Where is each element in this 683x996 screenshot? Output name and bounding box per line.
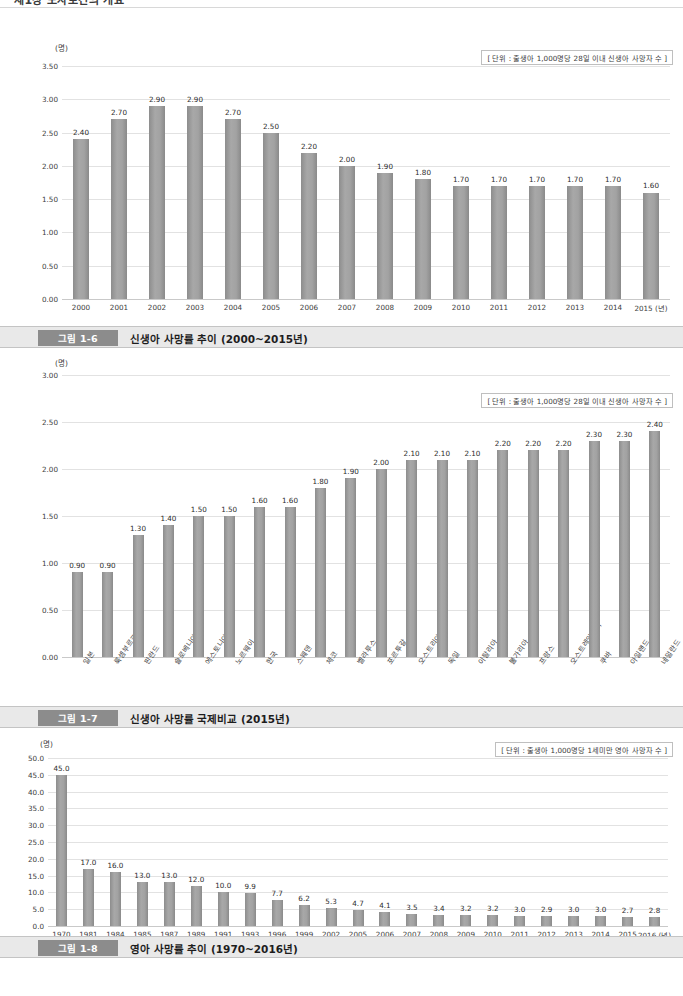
bar: [254, 507, 265, 657]
bar: [529, 186, 545, 299]
header-divider: [0, 7, 683, 8]
x-axis-tick-label: 스웨덴: [293, 660, 301, 666]
bar: [191, 886, 202, 926]
y-axis-tick-label: 2.00: [42, 161, 58, 170]
x-axis-tick-label: 2012: [528, 303, 546, 312]
bar: [56, 775, 67, 926]
y-axis-tick-label: 25.0: [28, 838, 44, 847]
y-axis-tick-label: 10.0: [28, 888, 44, 897]
bar-value-label: 9.9: [244, 882, 255, 891]
x-axis-tick-label: 이탈리아: [475, 660, 483, 666]
y-axis-tick-label: 0.00: [42, 653, 58, 662]
y-axis-tick-label: 1.50: [42, 195, 58, 204]
y-axis-tick-label: 0.50: [42, 606, 58, 615]
bar: [218, 892, 229, 926]
bar-value-label: 1.70: [529, 175, 545, 184]
x-axis-tick-label: 2010: [452, 303, 470, 312]
page-running-head: 제1장 모자보건의 개요: [0, 0, 683, 9]
bar: [415, 179, 431, 299]
bar: [272, 900, 283, 926]
bar-value-label: 3.2: [487, 904, 498, 913]
y-axis-tick-label: 0.50: [42, 261, 58, 270]
y-axis-tick-label: 1.00: [42, 228, 58, 237]
y-axis-tick-label: 2.00: [42, 465, 58, 474]
x-axis-tick-label: 에스토니아: [202, 660, 210, 666]
bar-value-label: 1.60: [643, 181, 659, 190]
bar: [111, 119, 127, 299]
bar: [301, 153, 317, 299]
bar-value-label: 1.50: [191, 505, 207, 514]
figure-1-8: (명) [ 단위 : 출생아 1,000명당 1세미만 영아 사망자 수 ] 0…: [0, 736, 683, 936]
bar: [339, 166, 355, 299]
figure-1-8-unit-note: [ 단위 : 출생아 1,000명당 1세미만 영아 사망자 수 ]: [495, 742, 673, 757]
bar-value-label: 2.70: [225, 108, 241, 117]
figure-1-6-title: 신생아 사망률 추이 (2000~2015년): [130, 327, 308, 349]
bar-value-label: 1.60: [282, 496, 298, 505]
bar: [377, 173, 393, 299]
bar-value-label: 5.3: [325, 897, 336, 906]
bar-value-label: 2.00: [339, 155, 355, 164]
bar: [245, 893, 256, 926]
bar: [353, 910, 364, 926]
y-axis-tick-label: 3.50: [42, 62, 58, 71]
bar: [643, 193, 659, 300]
bar: [514, 916, 525, 926]
bar: [137, 882, 148, 926]
bar: [102, 572, 113, 657]
gridline: [48, 792, 668, 793]
gridline: [48, 758, 668, 759]
x-axis-tick-label: 포르투갈: [384, 660, 392, 666]
bar-value-label: 1.70: [605, 175, 621, 184]
y-axis-tick-label: 1.50: [42, 512, 58, 521]
bar: [460, 915, 471, 926]
bar-value-label: 4.7: [352, 899, 363, 908]
bar-value-label: 10.0: [215, 881, 231, 890]
x-axis-tick-label: 2007: [338, 303, 356, 312]
x-axis-tick-label: 2000: [72, 303, 90, 312]
bar-value-label: 1.70: [453, 175, 469, 184]
bar: [622, 917, 633, 926]
bar: [595, 916, 606, 926]
bar: [133, 535, 144, 657]
bar-value-label: 1.80: [312, 477, 328, 486]
bar-value-label: 2.00: [373, 458, 389, 467]
bar-value-label: 45.0: [53, 764, 69, 773]
y-axis-tick-label: 50.0: [28, 754, 44, 763]
y-axis-tick-label: 20.0: [28, 854, 44, 863]
bar: [406, 460, 417, 657]
bar: [345, 478, 356, 657]
x-axis-tick-label: 아일랜드: [627, 660, 635, 666]
x-axis-tick-label: 한국: [263, 660, 271, 666]
y-axis-tick-label: 30.0: [28, 821, 44, 830]
x-axis-tick-label: 2006: [300, 303, 318, 312]
bar: [467, 460, 478, 657]
bar-value-label: 2.20: [495, 439, 511, 448]
bar-value-label: 2.20: [525, 439, 541, 448]
bar: [568, 916, 579, 926]
bar: [376, 469, 387, 657]
bar-value-label: 3.2: [460, 904, 471, 913]
figure-1-6: (명) [ 단위 : 출생아 1,000명당 28일 이내 신생아 사망자 수 …: [0, 40, 683, 326]
bar: [567, 186, 583, 299]
bar-value-label: 3.0: [514, 905, 525, 914]
y-axis-tick-label: 45.0: [28, 770, 44, 779]
bar: [491, 186, 507, 299]
bar-value-label: 2.70: [111, 108, 127, 117]
bar-value-label: 7.7: [271, 889, 282, 898]
running-head-text: 제1장 모자보건의 개요: [14, 0, 124, 7]
bar: [72, 572, 83, 657]
bar: [541, 916, 552, 926]
x-axis-tick-label: 프랑스: [536, 660, 544, 666]
bar: [285, 507, 296, 657]
bar: [437, 460, 448, 657]
x-axis-tick-label: 2008: [376, 303, 394, 312]
x-axis-tick-label: 2005: [262, 303, 280, 312]
x-axis-tick-label: 2009: [414, 303, 432, 312]
bar-value-label: 2.10: [404, 449, 420, 458]
figure-1-7-caption: 그림 1-7 신생아 사망률 국제비교 (2015년): [0, 706, 683, 728]
gridline: [48, 859, 668, 860]
bar-value-label: 2.30: [616, 430, 632, 439]
x-axis-tick-label: 일본: [80, 660, 88, 666]
x-axis-tick-label: 슬로베니아: [171, 660, 179, 666]
x-axis-tick-label: 2013: [566, 303, 584, 312]
